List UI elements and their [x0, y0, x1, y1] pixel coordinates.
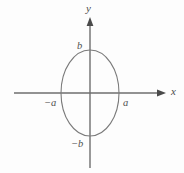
figure-canvas: [0, 0, 184, 173]
tick-label-negative-a: −a: [44, 97, 56, 108]
x-axis-label: x: [171, 86, 176, 97]
y-axis-label: y: [86, 3, 91, 14]
tick-label-negative-b: −b: [71, 138, 83, 149]
tick-label-b: b: [77, 40, 82, 51]
x-axis-arrow-icon: [157, 90, 166, 97]
tick-label-a: a: [123, 97, 128, 108]
y-axis-arrow-icon: [87, 17, 94, 26]
ellipse-figure: y x b −b a −a: [0, 0, 184, 173]
